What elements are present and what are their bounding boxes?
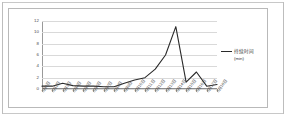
legend-line-swatch-icon [221,51,232,52]
chart-object: 024681012 3月1日3月2日3月3日3月4日3月5日3月6日3月7日3月… [8,8,268,108]
y-tick-label-4: 4 [37,64,39,68]
chart-figure-container: 024681012 3月1日3月2日3月3日3月4日3月5日3月6日3月7日3月… [0,0,287,116]
legend-entry-duration: 持续时间 [221,49,273,54]
legend-unit-label: (min) [234,56,273,61]
y-tick-label-0: 0 [37,87,39,91]
y-tick-label-2: 2 [37,75,39,79]
table-border-right [283,2,284,114]
x-tick-labels-group: 3月1日3月2日3月3日3月4日3月5日3月6日3月7日3月8日3月9日3月10… [42,91,217,115]
table-border-top [2,2,284,3]
y-tick-label-6: 6 [37,53,39,57]
table-border-left [2,2,3,114]
y-tick-label-8: 8 [37,41,39,45]
legend-label-duration: 持续时间 [234,49,254,54]
y-tick-label-12: 12 [34,19,39,23]
y-tick-label-10: 10 [34,30,39,34]
chart-legend: 持续时间 (min) [221,49,273,61]
